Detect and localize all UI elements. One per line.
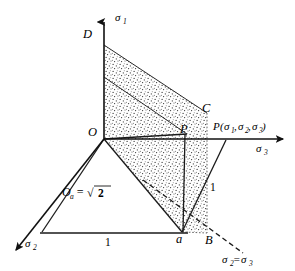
figure-canvas: σ 1 σ 3 σ 2 D C O P a B P ( σ 1 , σ 2 , (0, 0, 295, 271)
equality-sigma3: σ (241, 253, 247, 265)
p-coords-close: ) (261, 120, 266, 133)
axis-sigma2-subscript: 2 (33, 243, 37, 252)
point-label-a: a (176, 232, 182, 246)
axis-sigma2-glyph: σ (25, 237, 31, 249)
annotation-sigma-equality: σ 2 = σ 3 (222, 253, 253, 268)
annotation-oa-expression: O a = √ 2 (62, 185, 111, 201)
oa-radicand: 2 (98, 187, 104, 199)
equality-sigma2: σ (222, 253, 228, 265)
p-coords-name: P (212, 120, 220, 132)
p-coords-sigma1: σ (224, 120, 230, 132)
axis-sigma3-glyph: σ (256, 142, 262, 154)
equality-equals: = (233, 253, 240, 265)
p-coords-comma1: , (234, 120, 237, 132)
label-unit-bottom: 1 (105, 236, 111, 248)
p-coords-comma2: , (248, 120, 251, 132)
oa-lead-sub: a (70, 192, 74, 201)
oa-equals: = (76, 185, 84, 199)
p-coords-sigma2: σ (238, 120, 244, 132)
point-label-D: D (82, 27, 92, 41)
stress-space-diagram: σ 1 σ 3 σ 2 D C O P a B P ( σ 1 , σ 2 , (0, 0, 295, 271)
label-axis-sigma2: σ 2 (25, 237, 37, 252)
axis-sigma1-subscript: 1 (123, 17, 127, 26)
point-label-C: C (202, 101, 211, 115)
equality-sigma3-sub: 3 (248, 259, 253, 268)
p-coords-sigma3: σ (252, 120, 258, 132)
label-unit-diagonal: 1 (210, 181, 216, 193)
label-axis-sigma1: σ 1 (115, 11, 127, 26)
oa-radical-glyph: √ (87, 186, 94, 200)
label-axis-sigma3: σ 3 (256, 142, 268, 157)
point-label-O: O (88, 125, 97, 139)
axis-sigma3-subscript: 3 (263, 148, 268, 157)
axis-sigma1-glyph: σ (115, 11, 121, 23)
point-label-B: B (205, 233, 213, 247)
annotation-point-p-coords: P ( σ 1 , σ 2 , σ 3 ) (212, 120, 266, 135)
point-label-P: P (179, 122, 188, 136)
